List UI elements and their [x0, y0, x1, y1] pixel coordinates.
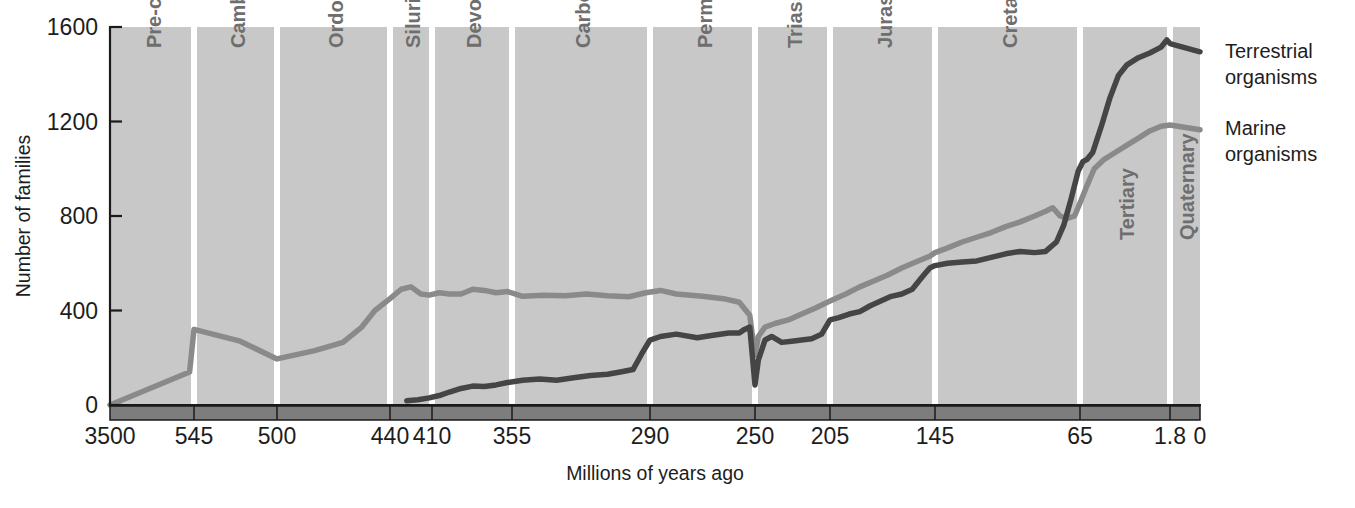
x-tick-label: 545 — [175, 423, 213, 449]
period-divider — [509, 27, 515, 405]
period-label-pre-cambrian: Pre-cambrian — [143, 0, 165, 48]
legend-label-line2: organisms — [1225, 66, 1317, 88]
period-divider — [429, 27, 435, 405]
y-tick-label: 400 — [60, 298, 98, 324]
x-axis-title: Millions of years ago — [566, 462, 744, 484]
chart-legend: TerrestrialorganismsMarineorganisms — [1225, 40, 1317, 165]
timescale-bar-fill — [110, 406, 1200, 420]
period-band — [435, 27, 512, 405]
x-tick-label: 205 — [811, 423, 849, 449]
period-divider — [827, 27, 833, 405]
period-divider — [1167, 27, 1173, 405]
y-tick-label: 0 — [85, 392, 98, 418]
x-axis-ticks: 3500545500440410355290250205145651.80 — [84, 423, 1206, 449]
legend-label-line2: organisms — [1225, 143, 1317, 165]
legend-label-line1: Terrestrial — [1225, 40, 1313, 62]
period-band — [393, 27, 432, 405]
y-tick-label: 1200 — [47, 109, 98, 135]
period-band — [653, 27, 755, 405]
x-tick-label: 500 — [258, 423, 296, 449]
period-band — [758, 27, 830, 405]
period-label-silurian: Silurian — [402, 0, 424, 48]
y-axis-title: Number of families — [12, 134, 34, 297]
period-band — [833, 27, 935, 405]
period-label-ordovician: Ordovician — [325, 0, 347, 48]
x-tick-label: 0 — [1194, 423, 1207, 449]
period-divider — [387, 27, 393, 405]
period-label-jurassic: Jurassic — [874, 0, 896, 48]
period-band — [280, 27, 390, 405]
period-label-tertiary: Tertiary — [1116, 167, 1138, 240]
x-tick-label: 145 — [916, 423, 954, 449]
x-tick-label: 250 — [736, 423, 774, 449]
period-divider — [274, 27, 280, 405]
x-tick-label: 65 — [1067, 423, 1093, 449]
period-band — [110, 27, 191, 405]
chart-svg: Pre-cambrianCambrianOrdovicianSilurianDe… — [0, 0, 1355, 508]
period-label-cretaceous: Cretaceous — [999, 0, 1021, 48]
period-label-carboniferous: Carboniferous — [572, 0, 594, 48]
period-label-devonian: Devonian — [463, 0, 485, 48]
y-tick-label: 800 — [60, 203, 98, 229]
x-tick-label: 290 — [631, 423, 669, 449]
period-divider — [932, 27, 938, 405]
timescale-bar — [110, 406, 1200, 420]
x-tick-label: 410 — [413, 423, 451, 449]
period-label-quaternary: Quaternary — [1176, 132, 1198, 240]
x-tick-label: 440 — [371, 423, 409, 449]
x-tick-label: 3500 — [84, 423, 135, 449]
x-tick-label: 355 — [493, 423, 531, 449]
geologic-period-bands: Pre-cambrianCambrianOrdovicianSilurianDe… — [110, 0, 1200, 405]
biodiversity-through-time-chart: Pre-cambrianCambrianOrdovicianSilurianDe… — [0, 0, 1355, 508]
period-band — [197, 27, 277, 405]
period-label-cambrian: Cambrian — [227, 0, 249, 48]
x-tick-label: 1.8 — [1154, 423, 1186, 449]
period-label-triassic: Triassic — [784, 0, 806, 48]
period-label-permian: Permian — [694, 0, 716, 48]
period-divider — [1077, 27, 1083, 405]
period-band — [515, 27, 650, 405]
y-tick-label: 1600 — [47, 14, 98, 40]
legend-label-line1: Marine — [1225, 117, 1286, 139]
